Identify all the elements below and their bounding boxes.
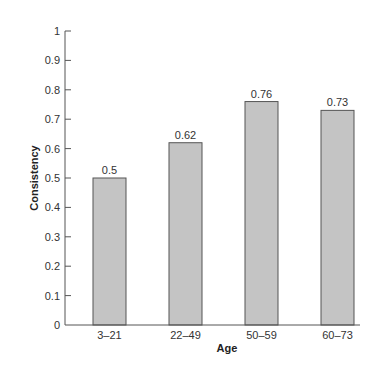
bar-chart: 00.10.20.30.40.50.60.70.80.91 0.50.620.7… — [0, 0, 376, 374]
bar-value-label: 0.62 — [175, 129, 196, 141]
y-tick-label: 0.7 — [45, 113, 60, 125]
bar — [93, 178, 126, 325]
bar — [169, 143, 202, 325]
y-tick-label: 0.3 — [45, 231, 60, 243]
bars: 0.50.620.760.73 — [93, 88, 354, 325]
y-tick-label: 0.6 — [45, 143, 60, 155]
x-tick-labels: 3–2122–4950–5960–73 — [97, 329, 353, 341]
x-tick-label: 50–59 — [246, 329, 277, 341]
y-tick-label: 0.1 — [45, 290, 60, 302]
bar — [245, 102, 278, 325]
y-tick-label: 1 — [54, 25, 60, 37]
bar-value-label: 0.73 — [327, 96, 348, 108]
x-tick-label: 22–49 — [170, 329, 201, 341]
y-ticks: 00.10.20.30.40.50.60.70.80.91 — [45, 25, 71, 331]
y-tick-label: 0.8 — [45, 84, 60, 96]
y-tick-label: 0.9 — [45, 54, 60, 66]
y-tick-label: 0.4 — [45, 201, 60, 213]
bar-value-label: 0.5 — [102, 164, 117, 176]
y-axis-title: Consistency — [28, 144, 40, 210]
y-tick-label: 0 — [54, 319, 60, 331]
y-tick-label: 0.2 — [45, 260, 60, 272]
x-tick-label: 3–21 — [97, 329, 121, 341]
x-tick-label: 60–73 — [322, 329, 353, 341]
y-tick-label: 0.5 — [45, 172, 60, 184]
bar-value-label: 0.76 — [251, 88, 272, 100]
bar — [321, 110, 354, 325]
x-axis-title: Age — [217, 342, 238, 354]
